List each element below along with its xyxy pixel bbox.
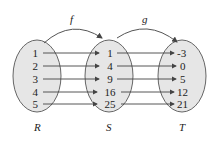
f-arc [44,29,102,43]
s-element: 1 [107,47,113,59]
set-R-elements: 1 2 3 4 5 [33,47,39,110]
t-element: 21 [177,98,188,110]
r-element: 4 [33,86,39,98]
t-element: 5 [180,73,186,85]
t-element: 12 [177,86,188,98]
r-element: 5 [33,98,39,110]
f-label: f [70,13,75,25]
set-R-label: R [33,121,41,133]
t-element: 0 [180,60,186,72]
s-element: 16 [105,86,117,98]
s-element: 9 [107,73,113,85]
set-S-label: S [106,121,112,133]
set-T-label: T [179,121,186,133]
r-element: 1 [33,47,39,59]
g-label: g [142,13,148,25]
g-arc [117,29,177,42]
function-composition-diagram: f g 1 2 3 4 5 1 4 9 16 25 -3 0 5 12 21 [0,0,219,141]
t-element: -3 [177,47,187,59]
r-element: 3 [33,73,39,85]
s-element: 4 [107,60,113,72]
s-element: 25 [105,98,117,110]
r-element: 2 [33,60,39,72]
